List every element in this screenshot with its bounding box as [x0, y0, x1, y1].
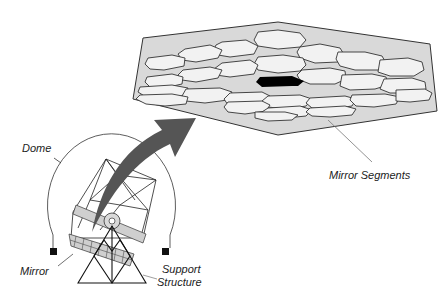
telescope-diagram: Dome Mirror Support Structure Mirror Seg… [0, 0, 445, 293]
mirror-label: Mirror [20, 265, 49, 277]
dome-label: Dome [22, 142, 51, 154]
primary-mirror [69, 234, 134, 266]
dome-base-right [162, 248, 169, 255]
dome-leader [54, 158, 61, 163]
support-leader [143, 275, 157, 279]
support-structure-label-line2: Structure [157, 276, 202, 288]
mirror-segments-label: Mirror Segments [329, 169, 410, 181]
support-structure-label-line1: Support [162, 263, 201, 275]
dome-base-left [50, 248, 57, 255]
diagram-canvas [0, 0, 445, 293]
mirror-leader [58, 254, 73, 266]
mirror-segments-leader [328, 120, 372, 162]
mirror-assembly [133, 22, 437, 135]
